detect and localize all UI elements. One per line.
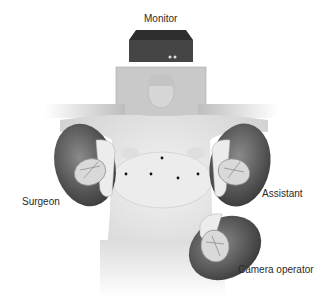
or-setup-illustration xyxy=(0,0,332,298)
monitor-label: Monitor xyxy=(144,13,177,24)
monitor xyxy=(129,30,193,62)
camera-operator-label: Camera operator xyxy=(238,264,314,275)
assistant-label: Assistant xyxy=(262,188,303,199)
surgeon-label: Surgeon xyxy=(22,196,60,207)
